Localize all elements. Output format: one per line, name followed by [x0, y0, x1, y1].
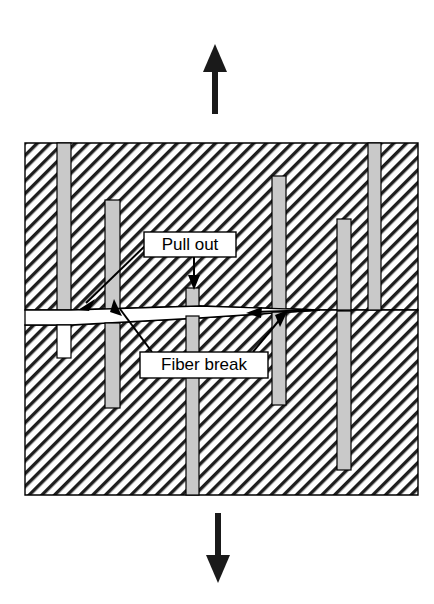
tensile-load-arrow-down: [206, 513, 230, 583]
fiber-2-lower: [105, 323, 120, 408]
label-fiber-break[interactable]: Fiber break: [140, 352, 268, 378]
fiber-6: [368, 143, 381, 310]
matrix-lower-hatch: [25, 310, 418, 495]
fiber-4: [272, 176, 286, 310]
fiber-2: [105, 200, 120, 310]
composite-failure-diagram: Pull out Fiber break: [0, 0, 434, 604]
tensile-load-arrow-up: [203, 44, 227, 114]
fiber-1: [57, 143, 71, 310]
fiber-3-broken-lower: [186, 316, 199, 495]
matrix-upper-hatch: [25, 143, 418, 310]
label-pull-out[interactable]: Pull out: [144, 232, 236, 257]
matrix-upper-block: [25, 143, 418, 310]
load-arrow-up-head: [203, 44, 227, 72]
fiber-1-pullout-void: [57, 325, 71, 358]
figure-root: Pull out Fiber break: [0, 0, 434, 604]
matrix-lower-block: [25, 310, 418, 495]
fiber-break-label-text: Fiber break: [161, 355, 247, 374]
pull-out-label-text: Pull out: [162, 235, 219, 254]
fiber-5-lower: [337, 311, 351, 470]
pull-out-void-group: [57, 325, 71, 358]
load-arrow-down-head: [206, 555, 230, 583]
fiber-5: [337, 219, 351, 310]
